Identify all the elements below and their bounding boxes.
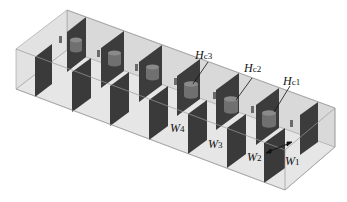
channel-diagram: Hc3 Hc2 Hc1 W4 W3 W2 W1 bbox=[0, 0, 347, 202]
channel-schematic bbox=[0, 0, 347, 202]
sensor-marker bbox=[213, 92, 216, 99]
label-hc3: Hc3 bbox=[195, 49, 212, 61]
cylinder-hc3 bbox=[184, 81, 198, 98]
sensor-marker bbox=[135, 64, 138, 71]
label-hc1: Hc1 bbox=[283, 75, 300, 87]
cylinder-1 bbox=[70, 38, 82, 53]
label-w4: W4 bbox=[170, 122, 185, 134]
sensor-marker bbox=[97, 50, 100, 57]
cylinder-2 bbox=[108, 51, 121, 67]
sensor-marker bbox=[290, 120, 293, 127]
label-w2: W2 bbox=[247, 151, 262, 163]
sensor-marker bbox=[59, 36, 62, 43]
label-hc2: Hc2 bbox=[244, 62, 261, 74]
sensor-marker bbox=[251, 106, 254, 113]
label-w3: W3 bbox=[208, 138, 223, 150]
cylinder-hc1 bbox=[262, 110, 276, 127]
label-w1: W1 bbox=[285, 155, 300, 167]
sensor-marker bbox=[174, 78, 177, 85]
cylinder-3 bbox=[146, 65, 159, 81]
cylinder-hc2 bbox=[224, 96, 238, 113]
